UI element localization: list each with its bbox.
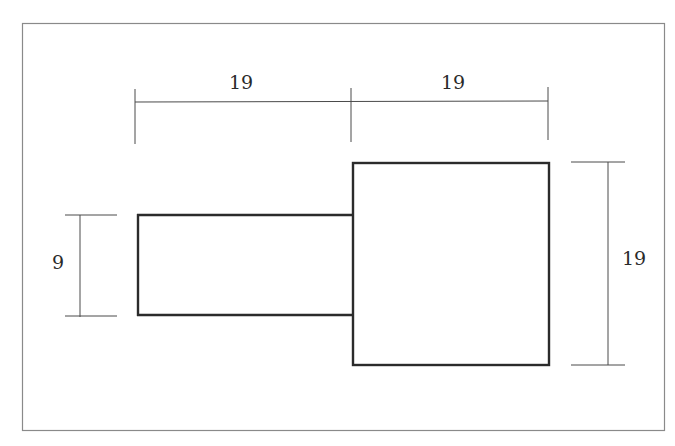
small-rectangle [137, 214, 353, 316]
dimension-label-top-left: 19 [229, 71, 253, 93]
diagram-canvas: 19 19 9 19 [0, 0, 675, 446]
top-dimension [135, 87, 548, 144]
dimension-label-right: 19 [622, 247, 646, 269]
dimension-label-left: 9 [52, 251, 64, 273]
left-dimension [65, 215, 117, 317]
drawing-frame [23, 24, 665, 431]
large-square [353, 163, 549, 365]
right-dimension [571, 162, 625, 365]
dimension-label-top-right: 19 [441, 71, 465, 93]
